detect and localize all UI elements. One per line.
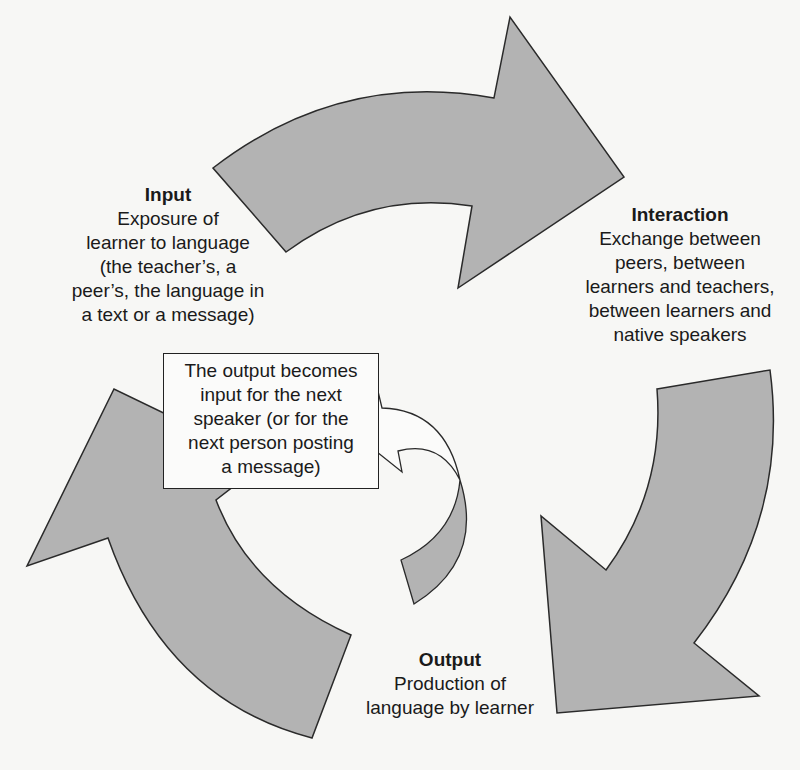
note-line: a message) [164, 455, 378, 479]
node-input-line: a text or a message) [38, 303, 298, 327]
node-output-line: Production of [340, 672, 560, 696]
node-output: Output Production of language by learner [340, 648, 560, 720]
node-interaction-line: between learners and [560, 299, 800, 323]
node-interaction-line: peers, between [560, 251, 800, 275]
node-input-line: learner to language [38, 231, 298, 255]
node-interaction-title: Interaction [560, 203, 800, 227]
node-input-line: Exposure of [38, 207, 298, 231]
note-line: input for the next [164, 383, 378, 407]
node-input: Input Exposure of learner to language (t… [38, 183, 298, 327]
small-arrow-tail [401, 480, 467, 604]
note-line: speaker (or for the [164, 407, 378, 431]
node-interaction-line: Exchange between [560, 227, 800, 251]
arrow-interaction-to-output [541, 370, 773, 713]
note-line: next person posting [164, 431, 378, 455]
node-input-title: Input [38, 183, 298, 207]
node-interaction-line: native speakers [560, 323, 800, 347]
node-input-line: peer’s, the language in [38, 279, 298, 303]
node-interaction-line: learners and teachers, [560, 275, 800, 299]
node-interaction: Interaction Exchange between peers, betw… [560, 203, 800, 347]
note-box: The output becomes input for the next sp… [163, 353, 379, 489]
node-output-title: Output [340, 648, 560, 672]
note-line: The output becomes [164, 359, 378, 383]
node-input-line: (the teacher’s, a [38, 255, 298, 279]
node-output-line: language by learner [340, 696, 560, 720]
